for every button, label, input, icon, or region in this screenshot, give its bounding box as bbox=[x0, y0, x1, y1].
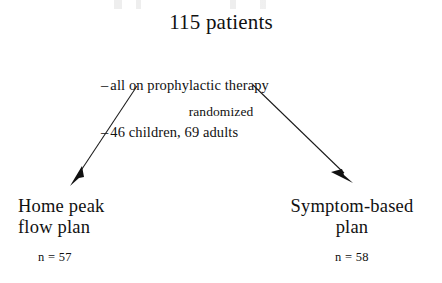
randomization-label: randomized bbox=[0, 105, 442, 119]
arrow-left-head bbox=[70, 166, 84, 186]
arm-left-sample-size: n = 57 bbox=[38, 250, 188, 265]
bullet-item-1: –46 children, 69 adults bbox=[101, 125, 269, 141]
en-dash-icon: – bbox=[101, 124, 108, 140]
arm-home-peak-flow-plan: Home peak flow plan n = 57 bbox=[18, 196, 188, 265]
arm-right-title: Symptom-based plan bbox=[262, 196, 442, 238]
arrow-right-head bbox=[331, 169, 353, 183]
arm-right-title-line2: plan bbox=[262, 217, 442, 238]
study-flow-diagram: 115 patients –all on prophylactic therap… bbox=[0, 0, 442, 283]
en-dash-icon: – bbox=[101, 77, 108, 93]
arm-left-title-line1: Home peak bbox=[18, 196, 188, 217]
bullet-item-0-text: all on prophylactic therapy bbox=[110, 77, 269, 93]
arm-right-title-line1: Symptom-based bbox=[262, 196, 442, 217]
arm-left-title: Home peak flow plan bbox=[18, 196, 188, 238]
arm-left-title-line2: flow plan bbox=[18, 217, 188, 238]
diagram-title: 115 patients bbox=[0, 12, 442, 33]
bullet-item-0: –all on prophylactic therapy bbox=[101, 78, 269, 94]
arm-symptom-based-plan: Symptom-based plan n = 58 bbox=[262, 196, 442, 265]
arm-right-sample-size: n = 58 bbox=[262, 250, 442, 265]
bullet-item-1-text: 46 children, 69 adults bbox=[110, 124, 238, 140]
scan-artifact-overlay bbox=[110, 0, 340, 9]
